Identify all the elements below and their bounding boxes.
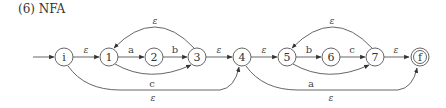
state-5: 5 <box>278 48 296 66</box>
nfa-diagram: ε a b c ε ε ε ε b c <box>0 0 446 108</box>
edge-label: b <box>172 44 178 55</box>
edge-label: c <box>349 44 355 55</box>
edge-label: a <box>128 44 134 55</box>
edge-label: b <box>306 44 312 55</box>
state-label: 3 <box>194 51 201 64</box>
edge-label: c <box>149 78 155 89</box>
edge-1-2: a <box>118 44 144 57</box>
state-1: 1 <box>100 48 118 66</box>
edge-label: ε <box>151 93 156 103</box>
state-label: 4 <box>239 51 246 64</box>
state-6: 6 <box>322 48 340 66</box>
edge-4-5: ε <box>251 45 277 57</box>
state-7: 7 <box>366 48 384 66</box>
edge-5-6: b <box>296 44 321 57</box>
state-label: 7 <box>372 51 379 64</box>
edge-6-7: c <box>340 44 365 57</box>
edge-i-1: ε <box>73 45 99 57</box>
state-label: 5 <box>284 51 291 64</box>
edge-7-f: ε <box>384 45 409 57</box>
edge-label: ε <box>262 45 267 55</box>
state-i: i <box>55 48 73 66</box>
state-2: 2 <box>145 48 163 66</box>
state-f-accepting: f <box>411 48 429 66</box>
state-label: 6 <box>328 51 335 64</box>
edge-label: ε <box>217 45 222 55</box>
edge-label: ε <box>153 16 158 26</box>
edge-label: ε <box>84 45 89 55</box>
edge-label: ε <box>394 45 399 55</box>
edge-3-4: ε <box>206 45 232 57</box>
edge-2-3: b <box>163 44 187 57</box>
edge-7-5: ε <box>292 16 372 48</box>
state-label: 2 <box>151 51 158 64</box>
edge-label: a <box>308 78 314 89</box>
edge-label: ε <box>330 16 335 26</box>
edge-label: ε <box>329 93 334 103</box>
edge-5-7: a <box>293 64 369 89</box>
state-4: 4 <box>233 48 251 66</box>
edge-1-3: c <box>115 64 191 89</box>
state-3: 3 <box>188 48 206 66</box>
edge-3-1: ε <box>114 16 194 48</box>
state-label: 1 <box>106 51 113 64</box>
state-label: i <box>62 51 66 64</box>
edge-4-f: ε <box>246 66 417 103</box>
